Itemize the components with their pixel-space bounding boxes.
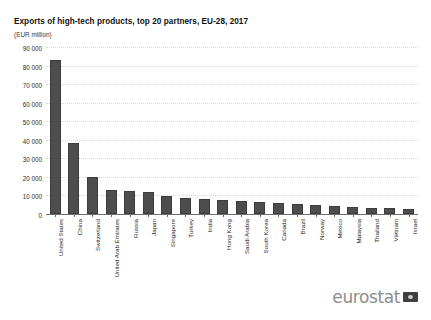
bar	[273, 203, 284, 214]
x-axis-tick	[353, 214, 354, 217]
bar	[124, 191, 135, 214]
bar	[347, 207, 358, 214]
bar	[143, 192, 154, 214]
x-axis-tick	[241, 214, 242, 217]
bar-slot	[213, 47, 232, 214]
x-axis-tick	[55, 214, 56, 217]
bar	[87, 177, 98, 214]
bar-slot	[362, 47, 381, 214]
x-axis-slot: Norway	[306, 214, 325, 314]
bar-slot	[158, 47, 177, 214]
x-axis-tick	[297, 214, 298, 217]
y-axis-tick-label: 10 000	[23, 193, 42, 200]
x-axis-slot: Japan	[139, 214, 158, 314]
bar-slot	[306, 47, 325, 214]
x-axis-tick	[74, 214, 75, 217]
bar	[292, 204, 303, 214]
x-axis-tick	[409, 214, 410, 217]
x-axis-slot: United States	[46, 214, 65, 314]
x-axis-slot: Turkey	[176, 214, 195, 314]
x-axis-slot: Switzerland	[83, 214, 102, 314]
x-axis-slot: India	[195, 214, 214, 314]
bar	[50, 60, 61, 214]
bar	[217, 200, 228, 214]
x-axis-tick	[316, 214, 317, 217]
chart-title: Exports of high-tech products, top 20 pa…	[14, 17, 248, 26]
bar-slot	[232, 47, 251, 214]
bar-slot	[399, 47, 418, 214]
bar	[106, 190, 117, 214]
chart-figure: Exports of high-tech products, top 20 pa…	[0, 0, 431, 320]
x-axis-tick	[390, 214, 391, 217]
x-axis-tick	[111, 214, 112, 217]
bar-slot	[381, 47, 400, 214]
x-axis-slot: Russia	[120, 214, 139, 314]
bar-slot	[102, 47, 121, 214]
y-axis-tick-label: 30 000	[23, 156, 42, 163]
bar-slot	[65, 47, 84, 214]
bar-series	[46, 47, 418, 214]
x-axis-tick	[92, 214, 93, 217]
bar	[254, 202, 265, 214]
chart-unit-label: (EUR million)	[14, 31, 52, 38]
x-axis-slot: Singapore	[158, 214, 177, 314]
bar	[236, 201, 247, 214]
y-axis-tick-label: 20 000	[23, 174, 42, 181]
y-axis-tick-label: 0	[38, 212, 42, 219]
y-axis-tick-label: 90 000	[23, 45, 42, 52]
x-axis-tick	[204, 214, 205, 217]
bar	[310, 205, 321, 214]
bar-slot	[269, 47, 288, 214]
bar-slot	[344, 47, 363, 214]
eu-flag-icon	[403, 292, 418, 302]
x-axis-tick	[167, 214, 168, 217]
bar	[329, 206, 340, 214]
x-axis-tick	[185, 214, 186, 217]
eurostat-wordmark: eurostat	[332, 287, 400, 307]
y-axis-tick-label: 60 000	[23, 100, 42, 107]
x-axis-tick	[371, 214, 372, 217]
bar-slot	[176, 47, 195, 214]
y-axis-tick-label: 80 000	[23, 63, 42, 70]
bar	[199, 199, 210, 214]
x-axis-tick	[278, 214, 279, 217]
y-axis-tick-label: 50 000	[23, 119, 42, 126]
x-axis-slot: South Korea	[251, 214, 270, 314]
bar-slot	[288, 47, 307, 214]
plot-area: 90 00080 00070 00060 00050 00040 00030 0…	[46, 47, 418, 214]
x-axis-slot: China	[65, 214, 84, 314]
bar-slot	[46, 47, 65, 214]
x-axis-slot: Saudi Arabia	[232, 214, 251, 314]
bar-slot	[139, 47, 158, 214]
x-axis-slot: Canada	[269, 214, 288, 314]
bar-slot	[120, 47, 139, 214]
bar	[180, 198, 191, 214]
x-axis-slot: Hong Kong	[213, 214, 232, 314]
bar-slot	[83, 47, 102, 214]
x-axis-tick-label: Israel	[412, 219, 418, 234]
x-axis-tick	[334, 214, 335, 217]
x-axis-tick	[130, 214, 131, 217]
eurostat-logo: eurostat	[332, 287, 418, 307]
x-axis-slot: United Arab Emirates	[102, 214, 121, 314]
x-axis-tick	[148, 214, 149, 217]
bar-slot	[195, 47, 214, 214]
bar	[68, 143, 79, 214]
x-axis-tick	[260, 214, 261, 217]
bar	[161, 196, 172, 214]
bar-slot	[251, 47, 270, 214]
y-axis-tick-label: 70 000	[23, 82, 42, 89]
x-axis-tick	[223, 214, 224, 217]
x-axis-slot: Brazil	[288, 214, 307, 314]
bar-slot	[325, 47, 344, 214]
y-axis-tick-label: 40 000	[23, 137, 42, 144]
